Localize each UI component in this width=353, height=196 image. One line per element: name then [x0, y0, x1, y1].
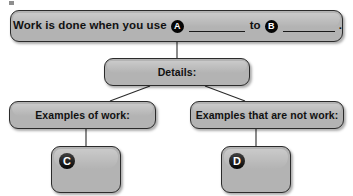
graphic-organizer-worksheet: Work is done when you use A to B . Detai…: [0, 0, 353, 196]
details-box: Details:: [104, 58, 250, 86]
answer-box-d[interactable]: D: [221, 146, 291, 193]
badge-d-icon: D: [229, 153, 245, 169]
examples-of-work-label: Examples of work:: [35, 110, 129, 121]
connector-details-to-notwork: [205, 86, 245, 101]
badge-c-icon: C: [59, 153, 75, 169]
answer-box-c[interactable]: C: [51, 146, 121, 193]
main-statement-banner: Work is done when you use A to B .: [10, 10, 343, 42]
statement-lead-text: Work is done when you use: [13, 20, 167, 32]
blank-answer-b[interactable]: [283, 21, 335, 32]
statement-middle-text: to: [250, 20, 261, 32]
statement-end-punctuation: .: [339, 20, 342, 32]
scan-artifact-mark: [9, 1, 14, 5]
badge-b-icon: B: [265, 20, 278, 33]
statement-text-run: Work is done when you use A to B .: [11, 20, 342, 33]
badge-a-icon: A: [171, 20, 184, 33]
examples-not-work-label: Examples that are not work:: [196, 110, 339, 121]
connector-details-to-work: [110, 86, 150, 101]
examples-of-work-box: Examples of work:: [9, 101, 156, 129]
blank-answer-a[interactable]: [189, 21, 245, 32]
examples-not-work-box: Examples that are not work:: [190, 101, 344, 129]
details-label: Details:: [158, 67, 197, 78]
